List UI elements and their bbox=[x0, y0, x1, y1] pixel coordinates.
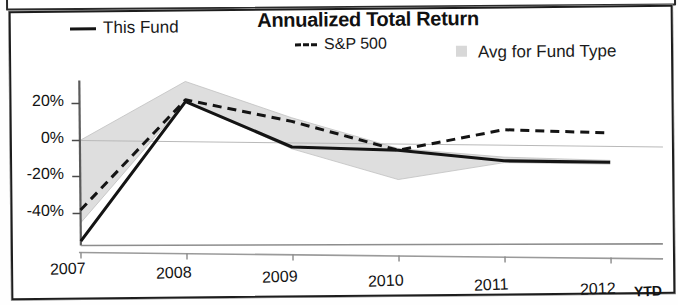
x-tick-label-2011: 2011 bbox=[474, 275, 509, 294]
y-tick-label-neg20: -20% bbox=[8, 165, 64, 183]
x-tick-label-2009: 2009 bbox=[262, 267, 298, 286]
chart-title: Annualized Total Return bbox=[218, 7, 518, 33]
legend-item-this-fund: This Fund bbox=[70, 18, 179, 39]
y-tick-label-20: 20% bbox=[8, 92, 64, 110]
legend-label-sp500: S&P 500 bbox=[324, 35, 387, 54]
chart-screenshot: Annualized Total Return This Fund S&P 50… bbox=[0, 0, 678, 305]
x-axis-ytd-note: YTD bbox=[634, 282, 663, 299]
legend-label-this-fund: This Fund bbox=[103, 18, 179, 39]
x-axis-line bbox=[79, 247, 663, 265]
dashed-line-icon bbox=[295, 43, 317, 46]
plot-bottom-rule bbox=[81, 240, 663, 250]
x-tick-label-2008: 2008 bbox=[156, 263, 192, 282]
y-tick-label-neg40: -40% bbox=[8, 202, 64, 220]
y-axis-line bbox=[79, 80, 81, 245]
chart-plot-area: Annualized Total Return This Fund S&P 50… bbox=[0, 0, 678, 305]
band-swatch-icon bbox=[456, 46, 467, 57]
x-tick-label-2007: 2007 bbox=[50, 259, 86, 278]
x-tick-label-2012: 2012 bbox=[580, 279, 616, 298]
x-tick-label-2010: 2010 bbox=[368, 271, 404, 290]
y-tick-label-0: 0% bbox=[8, 129, 64, 147]
legend-label-avg-fund-type: Avg for Fund Type bbox=[478, 41, 616, 62]
solid-line-icon bbox=[70, 27, 96, 30]
legend-item-sp500: S&P 500 bbox=[295, 35, 387, 54]
legend-item-avg-fund-type: Avg for Fund Type bbox=[478, 41, 616, 62]
